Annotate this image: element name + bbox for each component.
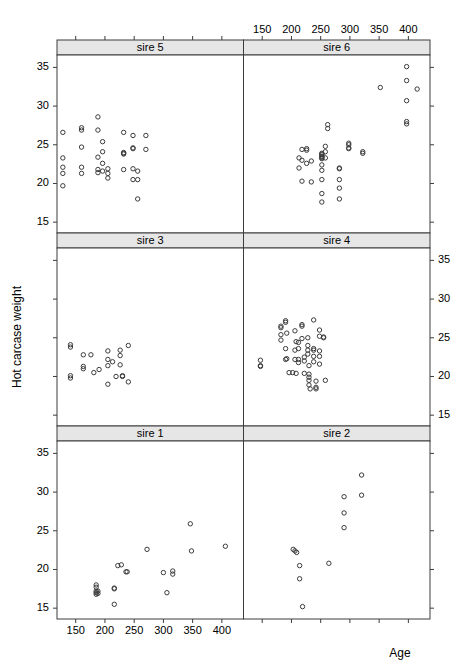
panel-sire1: sire 1 [57, 426, 244, 619]
panel-sire5: sire 5 [57, 40, 244, 233]
y-axis-title: Hot carcase weight [10, 285, 24, 388]
strip-label-sire6: sire 6 [323, 41, 350, 53]
panel-frame [244, 441, 431, 619]
y-tick-label-top: 15 [37, 215, 49, 227]
strip-label-sire4: sire 4 [323, 234, 350, 246]
y-tick-label-bottom: 15 [37, 601, 49, 613]
scatter-plot-matrix: sire 5sire 6sire 3sire 4sire 1sire 21515… [0, 0, 463, 670]
x-tick-label-top: 300 [341, 23, 359, 35]
x-tick-label-top: 200 [282, 23, 300, 35]
y-tick-label-bottom: 35 [37, 446, 49, 458]
panel-frame [244, 248, 431, 426]
x-tick-label-bottom: 200 [96, 624, 114, 636]
x-tick-label-bottom: 300 [154, 624, 172, 636]
y-tick-label-top: 30 [37, 99, 49, 111]
chart-canvas: sire 5sire 6sire 3sire 4sire 1sire 21515… [0, 0, 463, 670]
panel-sire6: sire 6 [244, 40, 431, 233]
y-tick-label-mid: 20 [438, 369, 450, 381]
x-tick-label-top: 250 [311, 23, 329, 35]
panel-frame [57, 55, 244, 233]
x-tick-label-bottom: 250 [125, 624, 143, 636]
panel-sire2: sire 2 [244, 426, 431, 619]
y-tick-label-top: 25 [37, 138, 49, 150]
x-tick-label-top: 400 [399, 23, 417, 35]
strip-label-sire5: sire 5 [137, 41, 164, 53]
panel-sire3: sire 3 [57, 233, 244, 426]
x-axis-title: Age [389, 646, 411, 660]
y-tick-label-top: 20 [37, 176, 49, 188]
x-tick-label-bottom: 400 [213, 624, 231, 636]
y-tick-label-mid: 35 [438, 253, 450, 265]
y-tick-label-top: 35 [37, 60, 49, 72]
panel-frame [57, 441, 244, 619]
panel-frame [57, 248, 244, 426]
y-tick-label-bottom: 30 [37, 485, 49, 497]
y-tick-label-mid: 30 [438, 292, 450, 304]
y-tick-label-bottom: 20 [37, 562, 49, 574]
x-tick-label-top: 150 [253, 23, 271, 35]
strip-label-sire3: sire 3 [137, 234, 164, 246]
y-tick-label-mid: 25 [438, 331, 450, 343]
x-tick-label-bottom: 350 [183, 624, 201, 636]
strip-label-sire1: sire 1 [137, 427, 164, 439]
panel-sire4: sire 4 [244, 233, 431, 426]
panel-frame [244, 55, 431, 233]
x-tick-label-bottom: 150 [67, 624, 85, 636]
y-tick-label-bottom: 25 [37, 524, 49, 536]
strip-label-sire2: sire 2 [323, 427, 350, 439]
x-tick-label-top: 350 [370, 23, 388, 35]
y-tick-label-mid: 15 [438, 408, 450, 420]
